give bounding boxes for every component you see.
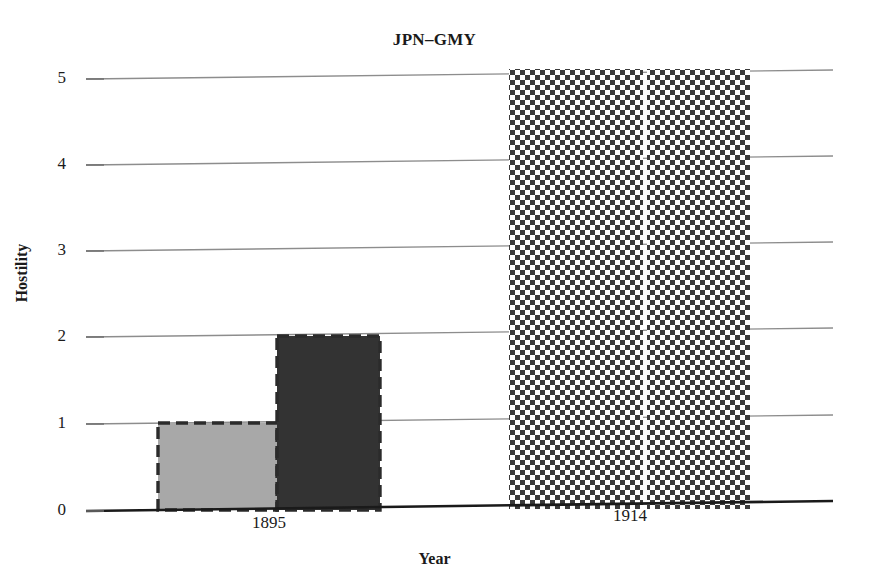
plot-area: [0, 0, 869, 587]
y-tick-label-5: 5: [26, 68, 66, 88]
y-tick-label-4: 4: [26, 154, 66, 174]
y-tick-marks: [86, 79, 104, 511]
bar-1914-checker-right: [647, 69, 750, 509]
chart-figure: JPN–GMY Hostility Year: [0, 0, 869, 587]
bar-1914-checker-left: [509, 69, 643, 509]
bar-1895-dark: [277, 336, 380, 510]
y-tick-label-0: 0: [26, 500, 66, 520]
bar-group-1914: [509, 69, 750, 509]
bar-1895-light: [158, 423, 277, 510]
bar-group-1895: [158, 336, 380, 510]
x-tick-label-1895: 1895: [209, 513, 329, 533]
y-tick-label-1: 1: [26, 413, 66, 433]
y-tick-label-3: 3: [26, 240, 66, 260]
x-tick-label-1914: 1914: [570, 506, 690, 526]
y-tick-label-2: 2: [26, 326, 66, 346]
